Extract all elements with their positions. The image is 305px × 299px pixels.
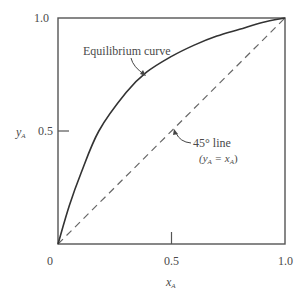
line45-arrow xyxy=(176,133,191,143)
line45-label: 45° line xyxy=(193,137,231,149)
y-tick-label-0.5: 0.5 xyxy=(38,125,53,137)
line45-equation: (yA = xA) xyxy=(199,153,238,166)
x-axis-label: xA xyxy=(166,276,176,290)
eq-mid: = x xyxy=(212,152,230,164)
x-tick-label-1.0: 1.0 xyxy=(278,255,293,267)
y-axis-label: yA xyxy=(16,126,26,140)
y-tick-label-1.0: 1.0 xyxy=(34,12,49,24)
eq-close: ) xyxy=(234,152,238,164)
y-axis-sub: A xyxy=(21,132,25,140)
x-axis-sub: A xyxy=(171,282,175,290)
x-tick-label-0.5: 0.5 xyxy=(164,255,179,267)
x-tick-label-0: 0 xyxy=(47,255,53,267)
equilibrium-curve-label: Equilibrium curve xyxy=(83,45,171,57)
eq-open: (y xyxy=(199,152,208,164)
line45-arrowhead xyxy=(173,129,178,135)
